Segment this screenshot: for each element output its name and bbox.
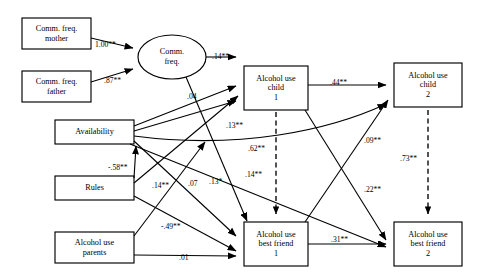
node-box-alcohol-child-2: [394, 63, 462, 107]
path-alcohol-child-1-to-alcohol-friend-2: [305, 110, 386, 240]
node-box-alcohol-friend-1: [244, 222, 308, 266]
path-alcohol-friend-1-to-alcohol-child-2: [305, 100, 388, 222]
node-box-comm-mother: [22, 18, 91, 49]
path-availability-to-alcohol-friend-1: [134, 141, 236, 236]
path-comm-father-to-comm-freq: [91, 69, 133, 82]
path-rules-to-availability: [134, 146, 136, 178]
node-box-availability: [55, 120, 134, 144]
path-alcohol-parents-to-alcohol-friend-1: [134, 255, 236, 256]
node-box-alcohol-friend-2: [394, 222, 462, 266]
path-rules-to-alcohol-friend-1: [134, 196, 236, 251]
sem-path-diagram: Comm. freq. mother Comm. freq. father Av…: [0, 0, 477, 279]
node-box-rules: [55, 176, 134, 200]
diagram-canvas: [0, 0, 477, 279]
node-box-alcohol-child-1: [244, 66, 308, 110]
path-rules-to-alcohol-child-1: [134, 96, 238, 183]
node-ellipse-comm-freq: [138, 35, 206, 79]
node-box-alcohol-parents: [55, 232, 134, 263]
path-alcohol-parents-to-availability: [134, 142, 205, 236]
path-comm-mother-to-comm-freq: [91, 38, 133, 48]
path-comm-freq-to-alcohol-friend-1: [186, 77, 247, 221]
node-box-comm-father: [22, 71, 91, 102]
